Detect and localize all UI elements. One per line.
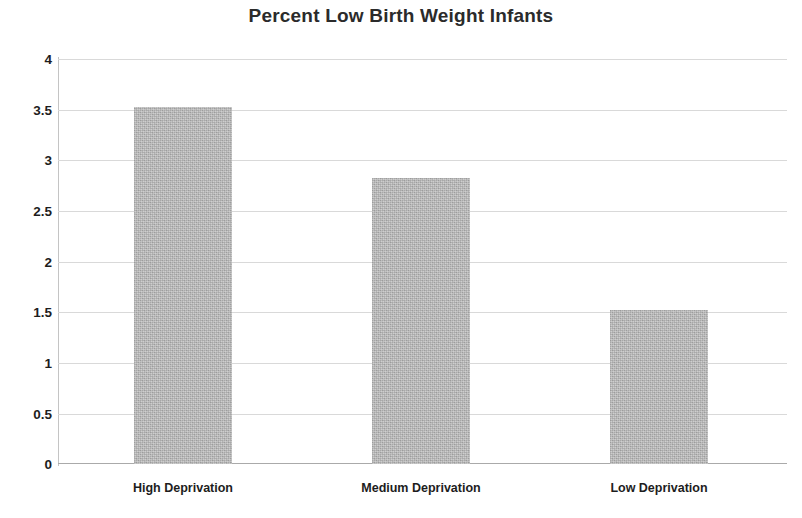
y-tick-label: 0.5 bbox=[6, 407, 52, 422]
bar-high-deprivation[interactable] bbox=[134, 107, 232, 464]
x-tick-label-high-deprivation: High Deprivation bbox=[83, 481, 283, 495]
x-tick-label-medium-deprivation: Medium Deprivation bbox=[321, 481, 521, 495]
y-tick-label: 2 bbox=[6, 255, 52, 270]
y-tick-label: 4 bbox=[6, 52, 52, 67]
plot-area bbox=[58, 59, 787, 464]
y-tick-label: 3.5 bbox=[6, 103, 52, 118]
chart-title: Percent Low Birth Weight Infants bbox=[0, 5, 802, 27]
y-tick-label: 1.5 bbox=[6, 305, 52, 320]
y-tick-label: 1 bbox=[6, 356, 52, 371]
x-tick-label-low-deprivation: Low Deprivation bbox=[559, 481, 759, 495]
gridline bbox=[58, 59, 787, 60]
bar-chart-figure: Percent Low Birth Weight Infants 4 3.5 3… bbox=[0, 0, 802, 518]
bar-low-deprivation[interactable] bbox=[610, 310, 708, 464]
y-tick-label: 0 bbox=[6, 457, 52, 472]
y-tick-label: 2.5 bbox=[6, 204, 52, 219]
y-tick-label: 3 bbox=[6, 153, 52, 168]
bar-medium-deprivation[interactable] bbox=[372, 178, 470, 464]
y-axis-tick-labels: 4 3.5 3 2.5 2 1.5 1 0.5 0 bbox=[0, 0, 52, 518]
